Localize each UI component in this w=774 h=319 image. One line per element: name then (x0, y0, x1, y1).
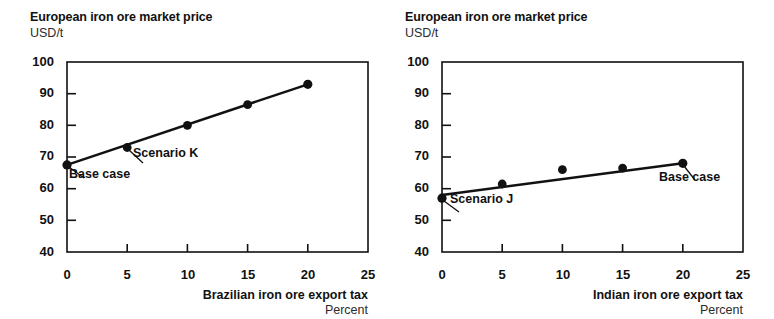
chart-panel-brazil: European iron ore market price USD/t 100… (0, 0, 387, 319)
data-points-india (437, 159, 687, 203)
data-point (498, 180, 507, 189)
plot-area-brazil (0, 0, 387, 319)
data-point (618, 164, 627, 173)
plot-frame (67, 62, 368, 252)
data-point (303, 80, 312, 89)
data-point (183, 121, 192, 130)
y-tick-marks (67, 94, 76, 221)
figure-container: European iron ore market price USD/t 100… (0, 0, 774, 319)
data-point (678, 159, 687, 168)
data-point (558, 165, 567, 174)
x-tick-marks (127, 244, 308, 252)
x-tick-marks (502, 244, 683, 252)
chart-panel-india: European iron ore market price USD/t 100… (387, 0, 774, 319)
annotation-leaders (69, 150, 143, 178)
plot-area-india (387, 0, 774, 319)
data-points-brazil (62, 80, 312, 170)
plot-frame (442, 62, 743, 252)
data-point (243, 100, 252, 109)
